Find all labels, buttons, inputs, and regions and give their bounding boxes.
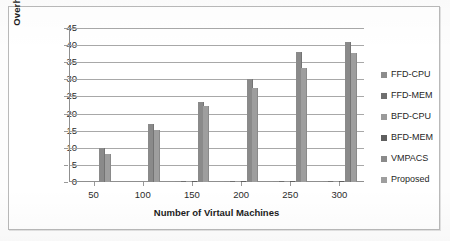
gridline (69, 165, 364, 166)
x-tick-mark (339, 182, 340, 186)
y-axis-title-wrap: Overhead Time (Seconds) (25, 21, 41, 191)
bar-ffd-mem[interactable] (279, 181, 284, 182)
y-tick-mark (64, 148, 68, 149)
bar-bfd-cpu[interactable] (334, 181, 339, 182)
gridline (69, 62, 364, 63)
bar-bfd-cpu[interactable] (235, 181, 240, 182)
bar-bfd-cpu[interactable] (285, 181, 290, 182)
bar-group (77, 28, 111, 182)
bar-proposed[interactable] (105, 154, 111, 182)
x-tick-mark (241, 182, 242, 186)
bar-group (273, 28, 307, 182)
x-tick-label: 50 (74, 189, 114, 200)
y-tick-mark (64, 28, 68, 29)
legend-item-ffd-mem[interactable]: FFD-MEM (381, 85, 450, 106)
legend-item-bfd-mem[interactable]: BFD-MEM (381, 127, 450, 148)
plot-area (69, 28, 364, 182)
y-tick-mark (64, 182, 68, 183)
x-tick-label: 150 (172, 189, 212, 200)
gridline (69, 79, 364, 80)
bar-group (323, 28, 357, 182)
legend-item-ffd-cpu[interactable]: FFD-CPU (381, 64, 450, 85)
legend-label: FFD-MEM (391, 91, 433, 100)
legend-item-vmpacs[interactable]: VMPACS (381, 148, 450, 169)
legend-label: Proposed (391, 175, 430, 184)
bar-ffd-cpu[interactable] (224, 181, 229, 182)
y-axis-line (69, 28, 70, 182)
bar-group (126, 28, 160, 182)
y-tick-mark (64, 165, 68, 166)
x-axis-title: Number of Virtaul Machines (69, 207, 364, 218)
x-tick-label: 200 (221, 189, 261, 200)
bar-ffd-mem[interactable] (230, 181, 235, 182)
legend-label: BFD-CPU (391, 112, 431, 121)
bar-bfd-cpu[interactable] (186, 181, 191, 182)
bar-ffd-mem[interactable] (328, 181, 333, 182)
y-axis-title: Overhead Time (Seconds) (11, 0, 22, 41)
bar-proposed[interactable] (351, 53, 357, 182)
chart-frame: Overhead Time (Seconds) 0510152025303540… (8, 6, 440, 230)
bar-proposed[interactable] (154, 130, 160, 182)
legend-label: FFD-CPU (391, 70, 431, 79)
x-tick-mark (94, 182, 95, 186)
legend-item-proposed[interactable]: Proposed (381, 169, 450, 190)
x-tick-label: 300 (319, 189, 359, 200)
x-tick-mark (143, 182, 144, 186)
legend-swatch-icon (381, 135, 387, 141)
y-tick-mark (64, 114, 68, 115)
legend-label: BFD-MEM (391, 133, 433, 142)
legend-item-bfd-cpu[interactable]: BFD-CPU (381, 106, 450, 127)
x-tick-label: 250 (270, 189, 310, 200)
bar-group (175, 28, 209, 182)
legend-swatch-icon (381, 114, 387, 120)
x-tick-label: 100 (123, 189, 163, 200)
gridline (69, 45, 364, 46)
bar-proposed[interactable] (252, 88, 258, 182)
bar-ffd-cpu[interactable] (323, 181, 328, 182)
gridline (69, 148, 364, 149)
gridline (69, 131, 364, 132)
y-tick-mark (64, 79, 68, 80)
bar-ffd-cpu[interactable] (273, 181, 278, 182)
bar-ffd-mem[interactable] (181, 181, 186, 182)
legend-swatch-icon (381, 177, 387, 183)
x-axis-line (69, 181, 364, 182)
gridline (69, 28, 364, 29)
legend-label: VMPACS (391, 154, 428, 163)
y-tick-mark (64, 131, 68, 132)
legend-swatch-icon (381, 156, 387, 162)
x-tick-mark (290, 182, 291, 186)
bar-proposed[interactable] (301, 68, 307, 182)
chart-legend: FFD-CPUFFD-MEMBFD-CPUBFD-MEMVMPACSPropos… (381, 64, 450, 190)
gridline (69, 114, 364, 115)
legend-swatch-icon (381, 72, 387, 78)
y-tick-mark (64, 96, 68, 97)
y-tick-mark (64, 45, 68, 46)
gridline (69, 96, 364, 97)
bar-ffd-cpu[interactable] (175, 181, 180, 182)
bar-group (224, 28, 258, 182)
y-tick-mark (64, 62, 68, 63)
chart-canvas: Overhead Time (Seconds) 0510152025303540… (0, 0, 450, 241)
legend-swatch-icon (381, 93, 387, 99)
x-tick-mark (192, 182, 193, 186)
bar-proposed[interactable] (203, 106, 209, 182)
